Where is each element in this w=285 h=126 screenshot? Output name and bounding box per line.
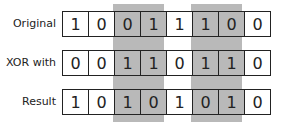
bit-cell: 1: [218, 50, 245, 76]
row-result: Result 1 0 1 0 1 0 1 0: [0, 89, 285, 115]
bit-cell: 0: [140, 89, 167, 115]
row-label: XOR with: [0, 50, 56, 76]
row-xor-with: XOR with 0 0 1 1 0 1 1 0: [0, 50, 285, 76]
bit-cell: 0: [244, 50, 271, 76]
bit-cell: 0: [244, 89, 271, 115]
bit-cell: 0: [218, 11, 245, 37]
bit-cell: 1: [62, 89, 89, 115]
bit-cell: 0: [244, 11, 271, 37]
bit-cell: 0: [88, 50, 115, 76]
row-label: Original: [0, 11, 56, 37]
bit-cells: 1 0 0 1 1 1 0 0: [62, 11, 271, 37]
bit-cell: 1: [62, 11, 89, 37]
bit-cells: 1 0 1 0 1 0 1 0: [62, 89, 271, 115]
bit-cells: 0 0 1 1 0 1 1 0: [62, 50, 271, 76]
bit-cell: 1: [140, 50, 167, 76]
bit-cell: 1: [166, 11, 193, 37]
bit-cell: 0: [88, 89, 115, 115]
bit-cell: 1: [114, 50, 141, 76]
bit-cell: 1: [166, 89, 193, 115]
bit-cell: 0: [192, 89, 219, 115]
bit-cell: 1: [114, 89, 141, 115]
bit-cell: 1: [218, 89, 245, 115]
bit-cell: 0: [166, 50, 193, 76]
bit-cell: 1: [192, 11, 219, 37]
bit-cell: 1: [140, 11, 167, 37]
bit-cell: 0: [114, 11, 141, 37]
bit-cell: 0: [62, 50, 89, 76]
bit-cell: 1: [192, 50, 219, 76]
bit-cell: 0: [88, 11, 115, 37]
row-original: Original 1 0 0 1 1 1 0 0: [0, 11, 285, 37]
row-label: Result: [0, 89, 56, 115]
